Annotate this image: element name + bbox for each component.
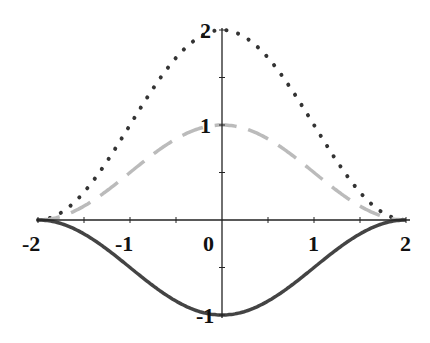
x-tick-label: -1 [115,231,133,256]
x-tick-label: -2 [22,231,40,256]
x-tick-label: 1 [308,231,319,256]
x-tick-label: 0 [203,231,214,256]
x-tick-label: 2 [400,231,411,256]
y-tick-label: 2 [200,18,211,43]
y-tick-label: 1 [200,113,211,138]
y-tick-label: -1 [196,303,214,328]
chart: -2 -1 0 1 2 2 1 -1 [0,0,430,343]
